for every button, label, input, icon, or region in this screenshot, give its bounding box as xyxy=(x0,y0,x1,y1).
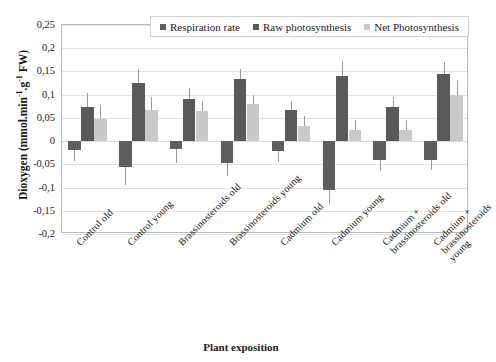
x-axis-title: Plant exposition xyxy=(0,341,482,353)
x-axis-tick-label: Control young xyxy=(125,198,175,248)
x-axis-tick-label: Cadmium old xyxy=(278,201,325,248)
x-axis-tick-label: Cadmium young xyxy=(329,192,385,248)
x-axis-tick-label: Control old xyxy=(74,207,115,248)
